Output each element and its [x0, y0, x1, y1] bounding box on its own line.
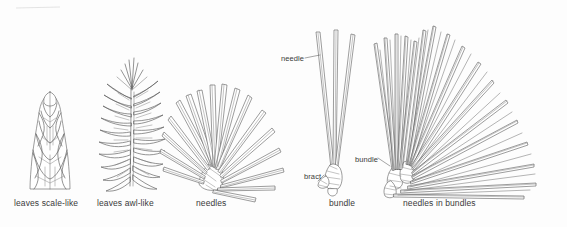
caption-needles: needles	[196, 198, 226, 208]
bundle-leader-line	[378, 158, 390, 166]
illustration-canvas: .ln { fill:none; stroke:#5a5a5a; stroke-…	[0, 0, 567, 227]
illustration-needles-fan	[160, 84, 284, 202]
botanical-illustration-plate: .ln { fill:none; stroke:#5a5a5a; stroke-…	[0, 0, 567, 227]
illustration-scale-like-leaves	[30, 92, 70, 189]
callout-label-bract: bract	[304, 172, 321, 181]
caption-needles-in-bundles: needles in bundles	[403, 198, 476, 208]
caption-leaves-awl-like: leaves awl-like	[97, 198, 154, 208]
illustration-bundle	[316, 30, 355, 196]
caption-leaves-scale-like: leaves scale-like	[14, 198, 78, 208]
illustration-awl-like-leaves	[99, 58, 165, 191]
callout-label-bundle: bundle	[355, 155, 378, 164]
scan-artifact	[16, 7, 60, 8]
needle-leader-line	[305, 55, 320, 58]
caption-bundle: bundle	[329, 198, 355, 208]
illustration-needles-in-bundles	[374, 26, 536, 199]
callout-label-needle: needle	[281, 54, 304, 63]
